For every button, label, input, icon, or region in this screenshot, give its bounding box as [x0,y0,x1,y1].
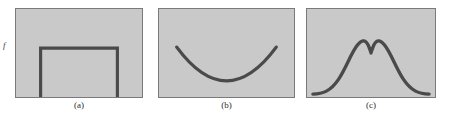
curve-rectangular-top-hat [41,48,118,97]
caption-a: (a) [15,101,143,110]
panel-b-plot [159,9,294,97]
caption-c: (c) [306,101,436,110]
panel-c [306,8,436,98]
panel-c-plot [307,9,435,97]
panel-b [158,8,295,98]
caption-b: (b) [158,101,295,110]
panel-a-plot [16,9,142,97]
curve-bimodal-double-peak [313,41,429,94]
figure-container: f (a) (b) (c) [0,0,451,119]
panel-a [15,8,143,98]
curve-parabola-upward [177,47,277,81]
y-axis-label: f [3,41,6,50]
